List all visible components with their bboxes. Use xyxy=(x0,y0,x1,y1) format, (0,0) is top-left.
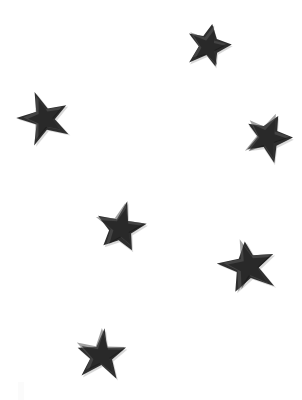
paper-smudge xyxy=(18,382,24,400)
star-icon xyxy=(89,196,153,260)
star-icon xyxy=(212,230,284,302)
star-icon xyxy=(176,14,240,78)
star-icon xyxy=(230,100,302,174)
star-image-canvas xyxy=(0,0,302,400)
star-icon xyxy=(71,325,132,386)
star-icon xyxy=(9,83,79,153)
